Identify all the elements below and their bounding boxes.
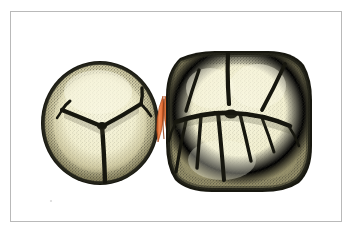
contact-point-seam <box>163 99 164 139</box>
left-tooth <box>38 58 164 190</box>
tooth-contact-illustration <box>0 0 353 236</box>
paper-speck <box>50 200 52 202</box>
right-fissure-central-vertical <box>228 54 229 104</box>
right-cusp-highlight-distobuccal <box>230 64 286 108</box>
figure-root: Occlusal view of two adjacent teeth with… <box>0 0 353 236</box>
right-tooth <box>164 48 316 196</box>
left-tooth-cusp-highlight <box>64 70 132 114</box>
left-fissure-distal-fork-upper <box>141 88 142 104</box>
